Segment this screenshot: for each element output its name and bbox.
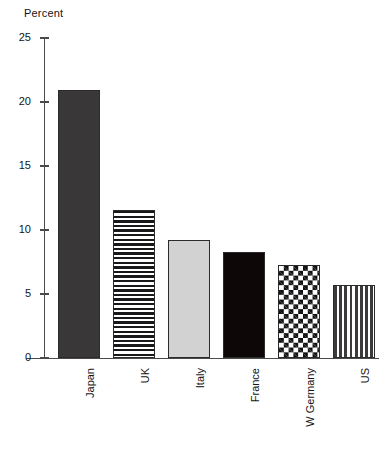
x-axis-label-w-germany: W Germany bbox=[304, 368, 316, 427]
bar-chart: Percent 0510152025 JapanUKItalyFranceW G… bbox=[0, 0, 387, 453]
bar-japan bbox=[58, 90, 100, 358]
bar-us bbox=[333, 285, 375, 358]
plot-area bbox=[44, 38, 379, 358]
bar-uk bbox=[113, 210, 155, 358]
x-axis-label-france: France bbox=[249, 368, 261, 402]
y-axis-tick-label: 15 bbox=[5, 159, 31, 171]
x-axis-label-italy: Italy bbox=[194, 368, 206, 388]
bar-italy bbox=[168, 240, 210, 358]
x-axis-label-uk: UK bbox=[139, 368, 151, 383]
x-axis-line bbox=[26, 358, 379, 359]
x-axis-label-us: US bbox=[359, 368, 371, 383]
y-axis-title: Percent bbox=[24, 7, 63, 19]
y-axis-tick-label: 5 bbox=[5, 287, 31, 299]
y-axis-tick-label: 20 bbox=[5, 95, 31, 107]
y-axis-tick-label: 10 bbox=[5, 223, 31, 235]
bar-france bbox=[223, 252, 265, 358]
y-axis-tick-label: 0 bbox=[5, 351, 31, 363]
y-axis-tick-label: 25 bbox=[5, 31, 31, 43]
bar-w-germany bbox=[278, 265, 320, 358]
x-axis-label-japan: Japan bbox=[84, 368, 96, 398]
